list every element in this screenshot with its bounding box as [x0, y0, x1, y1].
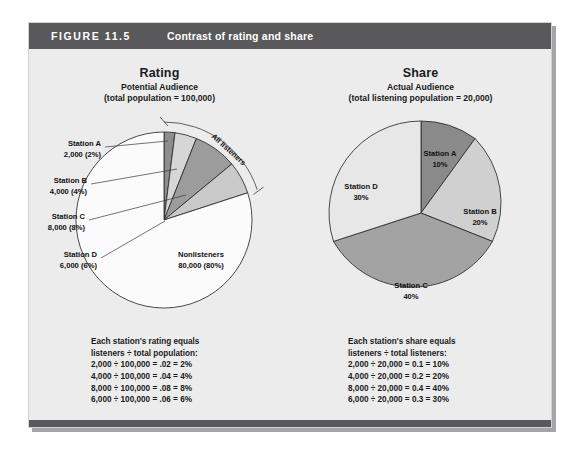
share-label-station-a-value: 10% [432, 160, 447, 169]
figure-header-bar: FIGURE 11.5 Contrast of rating and share [29, 23, 551, 49]
share-subtitle2: (total listening population = 20,000) [290, 93, 551, 103]
share-chart-area: Station A 10% Station B 20% Station C 40… [290, 103, 551, 335]
bracket-tick-start [160, 117, 168, 126]
share-label-station-c-name: Station C [394, 281, 428, 290]
share-label-station-d-name: Station D [344, 182, 378, 191]
rating-label-nonlisteners-name: Nonlisteners [178, 250, 224, 259]
rating-label-station-a-name: Station A [68, 139, 102, 148]
rating-panel: Rating Potential Audience (total populat… [29, 49, 290, 420]
share-label-station-b-name: Station B [463, 207, 497, 216]
rating-label-station-b-value: 4,000 (4%) [50, 187, 88, 196]
figure-body: Rating Potential Audience (total populat… [29, 49, 551, 420]
share-panel: Share Actual Audience (total listening p… [290, 49, 551, 420]
rating-chart-area: All listeners Station A 2,000 (2%) Stati… [29, 103, 290, 335]
rating-title: Rating [29, 66, 290, 80]
share-label-station-d-value: 30% [353, 193, 368, 202]
share-notes: Each station's share equals listeners ÷ … [348, 336, 456, 406]
share-subtitle: Actual Audience [290, 82, 551, 92]
rating-label-station-b-name: Station B [54, 176, 88, 185]
bracket-tick-end [254, 187, 264, 195]
share-title: Share [290, 66, 551, 80]
rating-subtitle: Potential Audience [29, 82, 290, 92]
rating-pie-chart: All listeners Station A 2,000 (2%) Stati… [29, 103, 291, 335]
rating-label-station-d-name: Station D [64, 250, 98, 259]
rating-label-station-c-value: 8,000 (8%) [48, 223, 86, 232]
figure-caption: Contrast of rating and share [167, 30, 313, 42]
rating-label-nonlisteners-value: 80,000 (80%) [178, 261, 224, 270]
share-label-station-c-value: 40% [403, 292, 418, 301]
rating-label-station-d-value: 6,000 (6%) [60, 261, 98, 270]
figure-number: FIGURE 11.5 [51, 30, 131, 42]
rating-notes: Each station's rating equals listeners ÷… [91, 336, 199, 406]
rating-subtitle2: (total population = 100,000) [29, 93, 290, 103]
share-label-station-a-name: Station A [423, 149, 457, 158]
figure-container: FIGURE 11.5 Contrast of rating and share… [28, 22, 552, 428]
share-pie-chart: Station A 10% Station B 20% Station C 40… [290, 103, 552, 335]
share-label-station-b-value: 20% [472, 218, 487, 227]
figure-footer-bar [29, 420, 551, 427]
rating-label-station-a-value: 2,000 (2%) [64, 150, 102, 159]
rating-label-station-c-name: Station C [52, 212, 86, 221]
